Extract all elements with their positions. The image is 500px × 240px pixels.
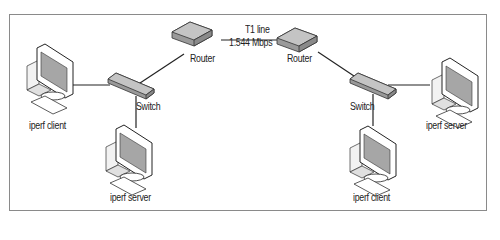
switch-left-icon: [108, 73, 154, 99]
link-switch-router-left: [137, 54, 184, 85]
computer-client-left-icon: [27, 44, 73, 114]
computer-server-left-icon: [106, 125, 152, 195]
client-left-label: iperf client: [29, 120, 66, 131]
server-right-label: iperf server: [426, 120, 467, 131]
router-right-label: Router: [287, 53, 312, 64]
switch-right-label: Switch: [350, 101, 374, 112]
server-left-label: iperf server: [110, 192, 151, 203]
link-speed-label: 1.544 Mbps: [229, 37, 272, 48]
router-left-icon: [172, 22, 212, 46]
computer-client-right-icon: [350, 126, 396, 196]
router-right-icon: [277, 28, 317, 52]
computer-server-right-icon: [432, 58, 478, 128]
client-right-label: iperf client: [353, 192, 390, 203]
link-name-label: T1 line: [245, 24, 270, 35]
switch-left-label: Switch: [136, 101, 160, 112]
router-left-label: Router: [190, 53, 215, 64]
